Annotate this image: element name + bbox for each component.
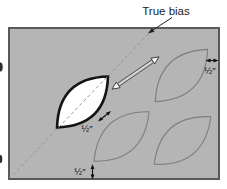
measure-label-right: ½″ [204,65,216,76]
true-bias-label: True bias [142,5,190,17]
diagram-canvas: True bias ½″ ½″ ½″ [0,0,227,189]
measure-label-seam: ½″ [81,123,93,134]
bias-cut-diagram: True bias ½″ ½″ ½″ [0,0,227,189]
fabric-swatch [9,28,219,179]
measure-label-bottom: ½″ [74,166,86,177]
edge-artifact-top [0,63,3,72]
edge-artifact-bottom [0,155,2,163]
